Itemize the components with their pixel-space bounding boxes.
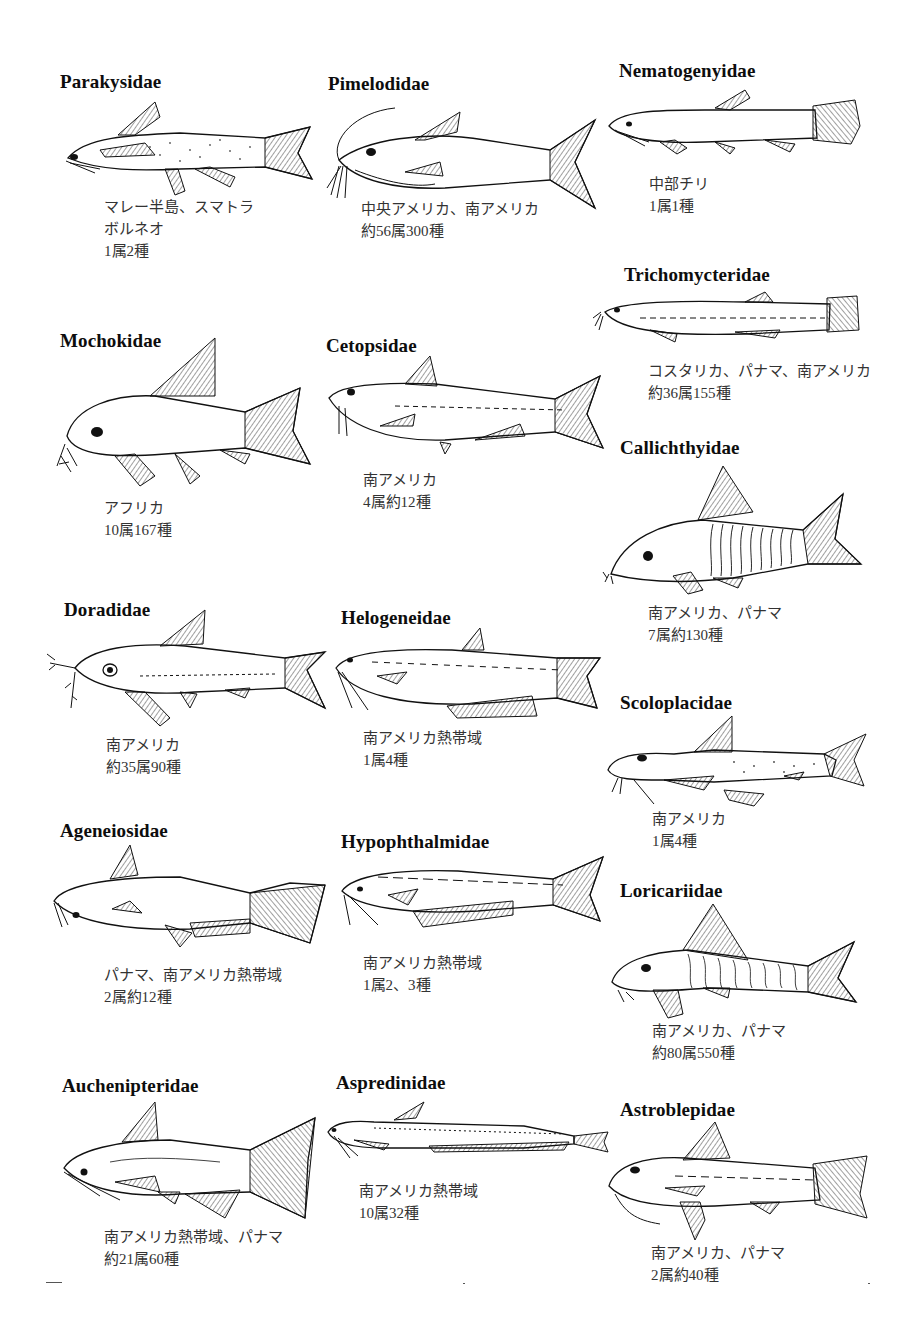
fish-illustration [55, 336, 315, 486]
family-description: 南アメリカ、パナマ 約80属550種 [652, 1020, 786, 1064]
fish-illustration [324, 1098, 614, 1158]
family-description: 南アメリカ熱帯域 1属4種 [363, 727, 482, 771]
family-name: Aspredinidae [336, 1072, 446, 1094]
fish-illustration [325, 100, 605, 200]
family-description: 南アメリカ 約35属90種 [106, 734, 181, 778]
family-description: パナマ、南アメリカ熱帯域 2属約12種 [104, 964, 282, 1008]
family-description: 中央アメリカ、南アメリカ 約56属300種 [361, 198, 539, 242]
scan-mark [463, 1283, 465, 1284]
fish-illustration [325, 354, 610, 464]
fish-illustration [605, 86, 865, 156]
family-description: 南アメリカ、パナマ 7属約130種 [648, 602, 782, 646]
fish-illustration [604, 714, 869, 809]
fish-illustration [332, 628, 607, 723]
family-description: 南アメリカ熱帯域、パナマ 約21属60種 [104, 1226, 283, 1270]
family-name: Callichthyidae [620, 437, 740, 459]
fish-illustration [45, 608, 330, 728]
family-name: Pimelodidae [328, 73, 429, 95]
family-name: Auchenipteridae [62, 1075, 199, 1097]
fish-illustration [60, 1100, 320, 1220]
family-description: 南アメリカ、パナマ 2属約40種 [651, 1242, 785, 1286]
family-description: 中部チリ 1属1種 [649, 173, 709, 217]
family-name: Parakysidae [60, 71, 161, 93]
fish-illustration [338, 855, 608, 935]
family-name: Ageneiosidae [60, 820, 168, 842]
family-name: Hypophthalmidae [341, 831, 489, 853]
family-name: Loricariidae [620, 880, 723, 902]
family-name: Scoloplacidae [620, 692, 732, 714]
fish-illustration [60, 95, 320, 180]
family-description: アフリカ 10属167種 [104, 497, 172, 541]
scan-mark [46, 1282, 62, 1283]
family-description: 南アメリカ 1属4種 [652, 808, 726, 852]
fish-illustration [605, 1120, 870, 1245]
family-name: Nematogenyidae [619, 60, 756, 82]
family-description: 南アメリカ 4属約12種 [363, 469, 437, 513]
family-name: Helogeneidae [341, 607, 451, 629]
family-description: コスタリカ、パナマ、南アメリカ 約36属155種 [648, 360, 871, 404]
fish-illustration [595, 290, 865, 350]
fish-illustration [50, 843, 330, 948]
fish-illustration [603, 464, 863, 594]
family-description: 南アメリカ熱帯域 1属2、3種 [363, 952, 482, 996]
family-name: Astroblepidae [620, 1099, 735, 1121]
family-description: 南アメリカ熱帯域 10属32種 [359, 1180, 478, 1224]
fish-illustration [608, 902, 858, 1022]
family-description: マレー半島、スマトラ ボルネオ 1属2種 [104, 196, 254, 262]
scan-mark [868, 1283, 870, 1284]
family-name: Trichomycteridae [624, 264, 770, 286]
